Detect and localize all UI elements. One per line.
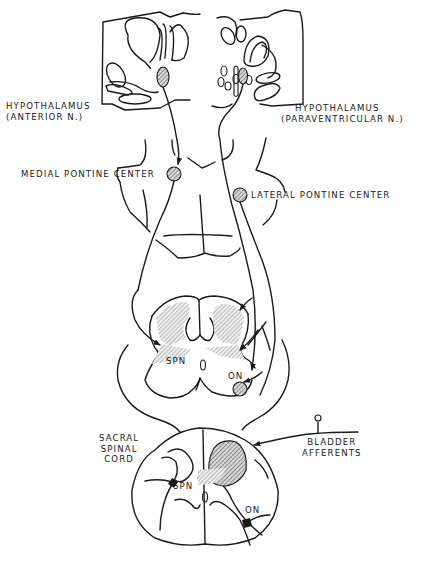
label-line: (PARAVENTRICULAR N.)	[281, 114, 404, 125]
label-lateral-pontine-center: LATERAL PONTINE CENTER	[251, 190, 390, 201]
hypothalamus-left-section	[102, 12, 200, 110]
paraventricular-nucleus	[239, 68, 248, 84]
label-upper-spn: SPN	[166, 356, 186, 367]
lateral-pontine-center	[233, 188, 247, 202]
label-sacral-spn: SPN	[173, 481, 193, 492]
label-bladder-afferents: BLADDER AFFERENTS	[302, 437, 362, 458]
label-line: (ANTERIOR N.)	[6, 112, 90, 123]
anterior-hypothalamic-nucleus	[157, 67, 169, 87]
sacral-spinal-cord-section	[132, 415, 358, 545]
label-upper-on: ON	[228, 371, 243, 382]
hypothalamus-right-section	[212, 10, 303, 108]
bladder-control-pathway-diagram	[0, 0, 425, 561]
label-line: AFFERENTS	[302, 448, 362, 459]
onuf-nucleus-upper	[233, 382, 247, 396]
label-line: SPINAL	[99, 444, 139, 455]
label-hypothalamus-anterior: HYPOTHALAMUS (ANTERIOR N.)	[6, 101, 90, 122]
label-hypothalamus-paraventricular: HYPOTHALAMUS (PARAVENTRICULAR N.)	[281, 103, 404, 124]
label-line: SACRAL	[99, 433, 139, 444]
label-line: HYPOTHALAMUS	[6, 101, 90, 112]
label-line: HYPOTHALAMUS	[281, 103, 404, 114]
medial-pontine-center	[167, 167, 181, 181]
label-sacral-spinal-cord: SACRAL SPINAL CORD	[99, 433, 139, 465]
upper-spinal-cord-section	[117, 290, 289, 432]
label-medial-pontine-center: MEDIAL PONTINE CENTER	[21, 169, 155, 180]
anterior-to-medial-pontine-axon	[163, 87, 179, 164]
lateral-pontine-descending-axon	[240, 202, 275, 395]
label-line: CORD	[99, 454, 139, 465]
label-sacral-on: ON	[245, 505, 260, 516]
label-line: BLADDER	[302, 437, 362, 448]
